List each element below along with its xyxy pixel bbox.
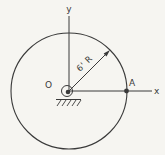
x-axis-label: x bbox=[154, 86, 160, 96]
point-a-label: A bbox=[129, 78, 136, 88]
point-a-dot bbox=[124, 89, 129, 94]
origin-label: O bbox=[45, 80, 52, 90]
ground-hatching-icon bbox=[57, 100, 81, 106]
diagram-canvas: y x O A 6' R bbox=[0, 0, 165, 155]
pin-center-dot bbox=[66, 90, 71, 95]
disk-pin-diagram: y x O A 6' R bbox=[0, 0, 165, 155]
radius-label: 6' R bbox=[74, 53, 94, 73]
y-axis-label: y bbox=[66, 4, 72, 14]
